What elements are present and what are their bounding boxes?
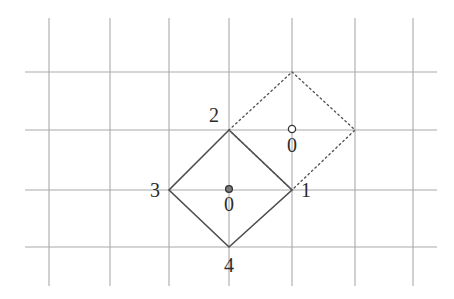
dotted-center-dot-label: 0 (287, 134, 297, 156)
vertex-label-2: 2 (209, 104, 219, 126)
vertex-label-1: 1 (301, 179, 311, 201)
solid-center-dot (226, 186, 233, 193)
solid-center-dot-label: 0 (224, 193, 234, 215)
figure-canvas: 00 2314 (0, 0, 454, 299)
geometry-figure: 00 2314 (0, 0, 454, 299)
dotted-center-dot (288, 125, 295, 132)
vertex-label-3: 3 (150, 179, 160, 201)
vertex-label-4: 4 (224, 254, 234, 276)
